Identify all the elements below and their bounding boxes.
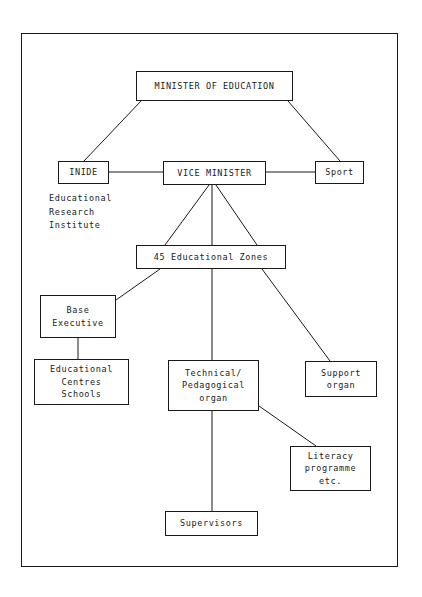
node-minister-of-education[interactable]: MINISTER OF EDUCATION (136, 71, 293, 101)
node-vice-minister[interactable]: VICE MINISTER (163, 161, 266, 185)
node-educational-centres-schools[interactable]: Educational Centres Schools (34, 359, 129, 405)
node-supervisors[interactable]: Supervisors (165, 511, 258, 536)
node-45-educational-zones[interactable]: 45 Educational Zones (136, 245, 286, 269)
node-inide[interactable]: INIDE (58, 161, 109, 184)
node-support-organ[interactable]: Support organ (305, 361, 377, 397)
caption-inide-expansion: Educational Research Institute (49, 192, 159, 233)
node-base-executive[interactable]: Base Executive (40, 295, 116, 338)
node-literacy-programme[interactable]: Literacy programme etc. (290, 446, 371, 491)
node-technical-pedagogical-organ[interactable]: Technical/ Pedagogical organ (168, 360, 259, 411)
diagram-page: MINISTER OF EDUCATION INIDE Educational … (0, 0, 422, 597)
node-sport[interactable]: Sport (315, 161, 364, 184)
